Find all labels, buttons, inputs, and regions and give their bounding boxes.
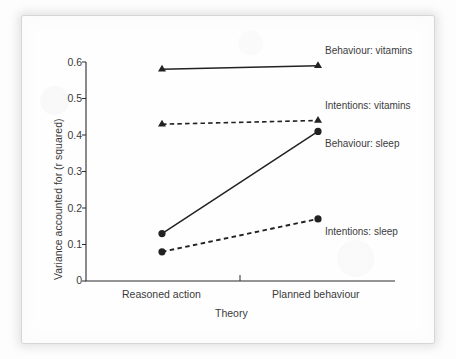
series-marker-intentions-sleep bbox=[158, 248, 165, 255]
series-line-intentions-sleep bbox=[162, 219, 318, 252]
series-label-intentions-sleep: Intentions: sleep bbox=[325, 226, 398, 237]
series-label-behaviour-sleep: Behaviour: sleep bbox=[325, 138, 400, 149]
x-axis-title: Theory bbox=[215, 307, 248, 319]
series-marker-behaviour-vitamins bbox=[158, 65, 166, 72]
series-line-behaviour-sleep bbox=[162, 131, 318, 233]
series-line-behaviour-vitamins bbox=[162, 66, 318, 70]
series-line-intentions-vitamins bbox=[162, 121, 318, 125]
series-label-behaviour-vitamins: Behaviour: vitamins bbox=[325, 45, 412, 56]
series-marker-behaviour-sleep bbox=[158, 230, 165, 237]
series-label-intentions-vitamins: Intentions: vitamins bbox=[325, 100, 411, 111]
y-tick-marks bbox=[82, 62, 86, 281]
axis-lines bbox=[86, 62, 395, 281]
x-tick-label-planned-behaviour: Planned behaviour bbox=[272, 288, 360, 300]
series-marker-intentions-sleep bbox=[314, 215, 321, 222]
line-chart-figure: 0.6 0.5 0.4 0.3 0.2 0.1 0 Variance accou… bbox=[0, 0, 456, 359]
series-marker-intentions-vitamins bbox=[314, 116, 322, 123]
series-marker-intentions-vitamins bbox=[158, 120, 166, 127]
x-tick-label-reasoned-action: Reasoned action bbox=[122, 288, 201, 300]
scanned-page: 0.6 0.5 0.4 0.3 0.2 0.1 0 Variance accou… bbox=[0, 0, 456, 359]
series-marker-behaviour-sleep bbox=[314, 128, 321, 135]
series-marker-behaviour-vitamins bbox=[314, 61, 322, 68]
